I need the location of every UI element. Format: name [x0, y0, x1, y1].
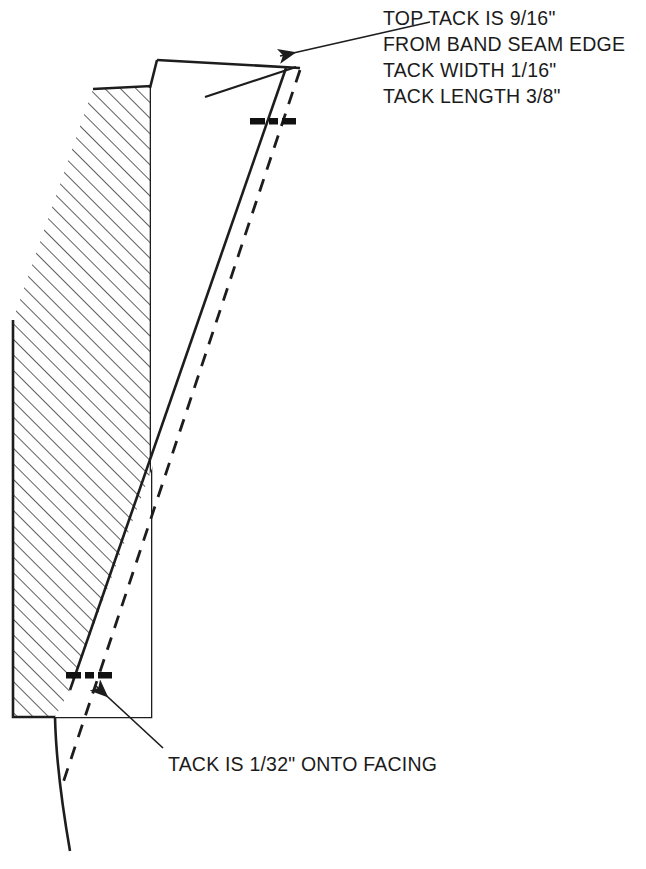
band-tail-curve — [55, 717, 70, 851]
sewing-diagram-svg: TOP TACK IS 9/16" FROM BAND SEAM EDGE TA… — [0, 0, 646, 869]
top-tack-bar-left — [250, 118, 265, 125]
bottom-tack-mark — [66, 672, 112, 679]
top-note-line-3: TACK WIDTH 1/16" — [383, 59, 556, 81]
top-tack-bar-mid — [269, 118, 278, 125]
bottom-tack-bar-mid — [85, 672, 94, 679]
diagram-canvas: TOP TACK IS 9/16" FROM BAND SEAM EDGE TA… — [0, 0, 646, 869]
top-tack-note: TOP TACK IS 9/16" FROM BAND SEAM EDGE TA… — [383, 7, 625, 107]
top-note-line-4: TACK LENGTH 3/8" — [383, 85, 561, 107]
top-note-line-2: FROM BAND SEAM EDGE — [383, 33, 625, 55]
bottom-tack-bar-left — [66, 672, 81, 679]
bottom-tack-note: TACK IS 1/32" ONTO FACING — [168, 753, 437, 775]
bottom-tack-bar-right — [98, 672, 112, 679]
top-note-line-1: TOP TACK IS 9/16" — [383, 7, 556, 29]
top-tack-mark — [250, 118, 296, 125]
top-tack-bar-right — [282, 118, 296, 125]
